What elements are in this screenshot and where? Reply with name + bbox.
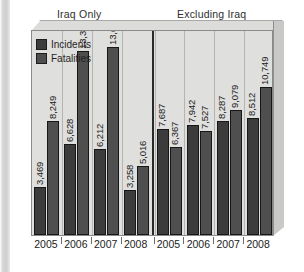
bar-incidents-2005 (34, 187, 46, 235)
x-axis-label-2008: 2008 (121, 238, 151, 250)
bar-value-label: 8,287 (216, 96, 227, 119)
bar-fatalities-2008 (137, 166, 149, 235)
x-axis-tick (183, 237, 184, 244)
panel-title-iraq-only: Iraq Only (57, 8, 101, 20)
bar-fatalities-2006 (200, 131, 212, 235)
bar-value-label: 10,749 (259, 57, 270, 85)
bar-value-label: 7,687 (156, 104, 167, 127)
x-axis-tick (121, 237, 122, 244)
bar-fatalities-2005 (47, 121, 59, 235)
category-separator (244, 30, 245, 235)
bar-value-label: 5,016 (137, 141, 148, 164)
bar-value-label: 7,527 (199, 106, 210, 129)
x-axis-label-2005: 2005 (154, 238, 184, 250)
x-axis-label-2006: 2006 (61, 238, 91, 250)
category-separator (214, 30, 215, 235)
chart-3d-box: 3,4698,2496,62813,3456,21213,6063,2585,0… (31, 30, 283, 236)
legend-item-fatalities: Fatalities (36, 53, 91, 64)
x-axis-tick (213, 237, 214, 244)
bar-value-label: 6,628 (64, 119, 75, 142)
category-separator (92, 30, 93, 235)
bar-value-label: 3,258 (124, 165, 135, 188)
x-axis-labels: 20052006200720082005200620072008 (31, 238, 283, 256)
legend-label-incidents: Incidents (51, 39, 91, 50)
bar-incidents-2007 (94, 149, 106, 235)
bar-value-label: 13,606 (107, 30, 118, 45)
bar-value-label: 6,367 (169, 122, 180, 145)
bar-fatalities-2005 (170, 147, 182, 235)
legend-label-fatalities: Fatalities (51, 53, 91, 64)
bar-value-label: 6,212 (94, 124, 105, 147)
panel-divider (152, 31, 154, 236)
legend-item-incidents: Incidents (36, 39, 91, 50)
x-axis-tick (243, 237, 244, 244)
bar-fatalities-2007 (107, 47, 119, 235)
x-axis-tick (91, 237, 92, 244)
bar-incidents-2008 (124, 190, 136, 235)
x-axis-tick (154, 237, 155, 244)
bar-incidents-2005 (157, 129, 169, 235)
bar-incidents-2008 (247, 118, 259, 235)
bar-incidents-2006 (187, 125, 199, 235)
bar-incidents-2006 (64, 144, 76, 235)
bar-value-label: 7,942 (186, 100, 197, 123)
legend-swatch-fatalities (36, 53, 47, 64)
category-separator (122, 30, 123, 235)
bar-value-label: 3,469 (34, 162, 45, 185)
bar-chart-figure: Iraq Only Excluding Iraq U.S. National C… (0, 0, 304, 272)
bar-value-label: 8,249 (47, 96, 58, 119)
x-axis-label-2007: 2007 (91, 238, 121, 250)
x-axis-tick (61, 237, 62, 244)
chart-box-right-face (273, 21, 285, 236)
bar-fatalities-2007 (230, 110, 242, 235)
bar-fatalities-2008 (260, 87, 272, 235)
chart-legend: Incidents Fatalities (36, 39, 91, 67)
category-separator (184, 30, 185, 235)
x-axis-label-2008: 2008 (243, 238, 273, 250)
bar-value-label: 8,512 (246, 93, 257, 116)
bar-fatalities-2006 (77, 51, 89, 235)
x-axis-label-2007: 2007 (213, 238, 243, 250)
category-separator (155, 30, 156, 235)
plot-area: 3,4698,2496,62813,3456,21213,6063,2585,0… (31, 30, 273, 236)
legend-swatch-incidents (36, 39, 47, 50)
x-axis-label-2005: 2005 (31, 238, 61, 250)
x-axis-label-2006: 2006 (183, 238, 213, 250)
bar-incidents-2007 (217, 121, 229, 235)
panel-title-excluding-iraq: Excluding Iraq (177, 8, 246, 20)
bar-value-label: 9,079 (229, 85, 240, 108)
